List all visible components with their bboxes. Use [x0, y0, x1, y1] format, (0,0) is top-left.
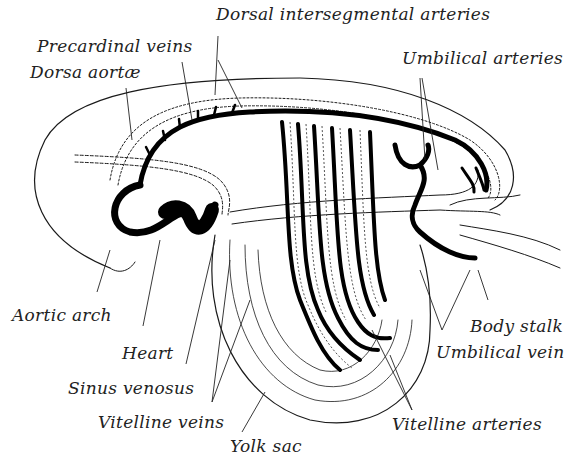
label-vitelline-veins: Vitelline veins [98, 412, 224, 432]
label-dorsal-intersegmental-arteries: Dorsal intersegmental arteries [216, 4, 490, 24]
label-sinus-venosus: Sinus venosus [68, 378, 194, 398]
umbilical-arteries [395, 145, 475, 258]
label-yolk-sac: Yolk sac [230, 436, 302, 456]
label-body-stalk: Body stalk [470, 316, 563, 336]
label-dorsa-aortae: Dorsa aortæ [30, 62, 141, 82]
label-umbilical-vein: Umbilical vein [436, 342, 564, 362]
label-umbilical-arteries: Umbilical arteries [402, 48, 563, 68]
label-vitelline-arteries: Vitelline arteries [392, 414, 542, 434]
leader-lines [97, 36, 488, 432]
label-aortic-arch: Aortic arch [12, 305, 112, 325]
label-precardinal-veins: Precardinal veins [37, 36, 193, 56]
label-heart: Heart [122, 343, 173, 363]
diagram-canvas: Dorsal intersegmental arteries Precardin… [0, 0, 581, 468]
